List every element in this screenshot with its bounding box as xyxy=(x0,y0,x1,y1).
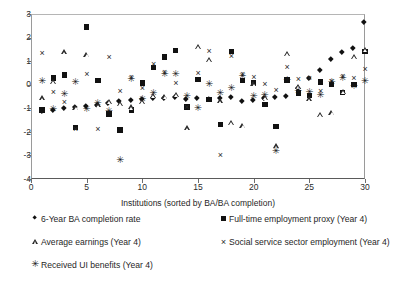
x-axis-title: Institutions (sorted by BA/BA completion… xyxy=(31,198,365,208)
legend-marker-open-triangle-icon xyxy=(31,237,40,246)
x-axis-tick-mark xyxy=(365,179,366,183)
x-axis-tick-label: 0 xyxy=(18,183,44,192)
x-axis-tick-mark xyxy=(31,179,32,183)
x-axis-tick-mark xyxy=(198,179,199,183)
x-axis-tick-mark xyxy=(254,179,255,183)
legend-label: Received UI benefits (Year 4) xyxy=(41,260,153,270)
legend-label: 6-Year BA completion rate xyxy=(41,214,141,224)
legend-label: Average earnings (Year 4) xyxy=(41,237,141,247)
legend-item: Full-time employment proxy (Year 4) xyxy=(219,214,367,224)
chart-legend: 6-Year BA completion rateFull-time emplo… xyxy=(31,214,391,288)
legend-item: ×Social service sector employment (Year … xyxy=(219,237,390,247)
y-axis: 3210-1-2-3-4 xyxy=(0,0,31,200)
x-axis-tick-label: 20 xyxy=(241,183,267,192)
legend-label: Full-time employment proxy (Year 4) xyxy=(229,214,367,224)
x-axis-tick-label: 25 xyxy=(296,183,322,192)
legend-marker-thin-cross-icon: × xyxy=(219,237,228,246)
x-axis-tick-mark xyxy=(87,179,88,183)
plot-wrapper: 3210-1-2-3-4 ×××××××××××××××××××××××××××… xyxy=(0,0,398,200)
legend-marker-filled-diamond-icon xyxy=(31,214,40,223)
x-axis-tick-label: 5 xyxy=(74,183,100,192)
legend-marker-bold-star-icon: ✳ xyxy=(31,260,40,269)
x-axis-tick-label: 30 xyxy=(352,183,378,192)
x-axis-tick-mark xyxy=(142,179,143,183)
legend-item: 6-Year BA completion rate xyxy=(31,214,141,224)
scatter-plot-figure: 3210-1-2-3-4 ×××××××××××××××××××××××××××… xyxy=(0,0,398,288)
legend-marker-filled-square-icon xyxy=(219,214,228,223)
legend-label: Social service sector employment (Year 4… xyxy=(229,237,390,247)
x-axis-tick-label: 10 xyxy=(129,183,155,192)
x-axis-tick-mark xyxy=(309,179,310,183)
legend-item: ✳Received UI benefits (Year 4) xyxy=(31,260,153,270)
x-axis-tick-label: 15 xyxy=(185,183,211,192)
legend-item: Average earnings (Year 4) xyxy=(31,237,141,247)
plot-area: ××××××××××××××××××××××××××××××✳✳✳✳✳✳✳✳✳✳… xyxy=(31,14,365,179)
